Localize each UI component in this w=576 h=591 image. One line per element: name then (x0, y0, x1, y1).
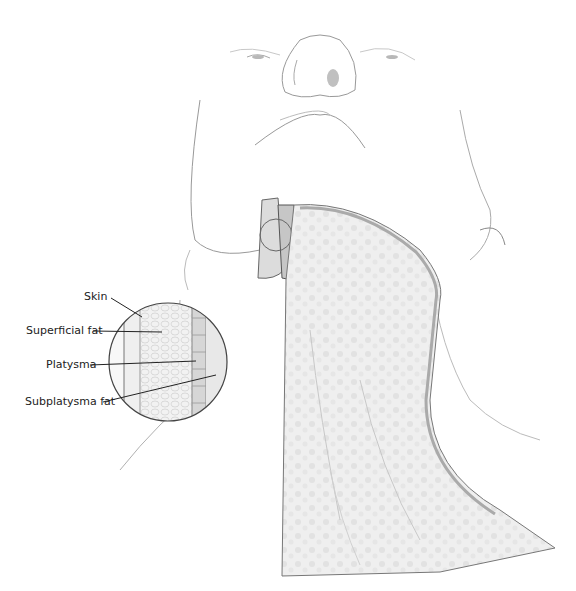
label-skin: Skin (84, 290, 107, 303)
label-superficial-fat: Superficial fat (26, 324, 102, 337)
label-platysma: Platysma (46, 358, 96, 371)
magnified-layers-circle (100, 300, 240, 430)
label-subplatysma-fat: Subplatysma fat (25, 395, 115, 408)
exposed-neck (282, 205, 555, 576)
